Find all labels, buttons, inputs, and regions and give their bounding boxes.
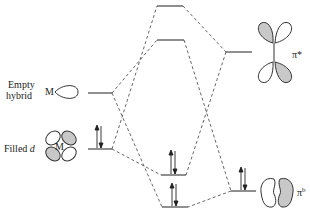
mo-diagram: Empty hybrid M Filled d M π* πb	[0, 0, 310, 210]
label-empty: Empty	[8, 79, 35, 90]
pi-star-orbital-icon	[258, 22, 291, 82]
correlation-lines	[112, 6, 231, 207]
energy-levels	[88, 6, 256, 207]
label-pi-bonding: πb	[297, 186, 306, 198]
hybrid-orbital-icon	[55, 86, 78, 99]
label-pi-star: π*	[292, 49, 302, 60]
metal-symbol: M	[45, 86, 54, 97]
pi-bonding-orbital-icon	[261, 178, 293, 207]
label-filled-d: Filled d	[4, 143, 36, 154]
metal-symbol-d: M	[55, 141, 64, 152]
label-hybrid: hybrid	[6, 90, 32, 101]
